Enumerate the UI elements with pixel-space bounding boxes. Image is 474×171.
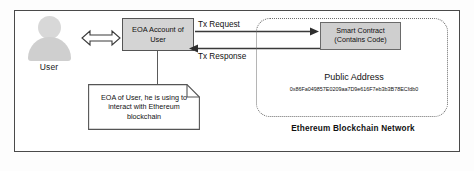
eoa-box-line2: User	[150, 35, 166, 44]
eoa-account-box: EOA Account of User	[122, 18, 194, 51]
avatar-head-shape	[38, 16, 61, 39]
eoa-note-connector-line	[157, 51, 158, 84]
public-address-title: Public Address	[266, 72, 442, 82]
smart-contract-box: Smart Contract (Contains Code)	[320, 22, 401, 50]
ethereum-blockchain-network-caption: Ethereum Blockchain Network	[258, 124, 448, 133]
avatar-body-shape	[28, 37, 71, 61]
note-text: EOA of User, he is using to interact wit…	[88, 84, 200, 130]
tx-response-label: Tx Response	[198, 52, 246, 61]
eoa-box-line1: EOA Account of	[132, 25, 184, 34]
eoa-description-note: EOA of User, he is using to interact wit…	[88, 84, 200, 130]
smart-contract-box-label: Smart Contract (Contains Code)	[334, 27, 386, 45]
smart-contract-line1: Smart Contract	[336, 26, 384, 35]
smart-contract-line2: (Contains Code)	[334, 35, 386, 44]
public-address-value: 0x86Fa049857E0209aa7D9e616F7eb3b3B78ECfd…	[256, 86, 452, 92]
user-label: User	[18, 62, 80, 72]
tx-request-label: Tx Request	[198, 20, 240, 29]
eoa-account-box-label: EOA Account of User	[132, 25, 184, 43]
user-avatar-icon	[22, 16, 76, 60]
diagram-canvas: User EOA Account of User EOA of User, he…	[0, 0, 474, 171]
user-eoa-bidirectional-arrow-icon	[81, 29, 121, 51]
